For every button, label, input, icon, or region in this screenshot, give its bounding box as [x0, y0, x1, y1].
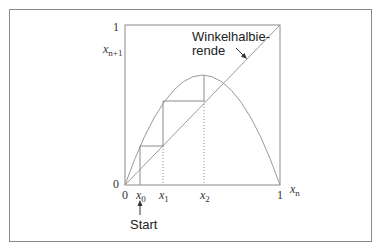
tick-sub: 1: [164, 194, 169, 204]
annotation-line-2: rende: [192, 44, 270, 58]
parabola-curve: [125, 75, 280, 185]
x-label-sub: n: [295, 188, 300, 198]
y-label-sub: n+1: [108, 48, 122, 58]
y-axis-origin: 0: [113, 178, 119, 190]
x-axis-label: xn: [290, 183, 300, 198]
x-tick-x0: x0: [136, 189, 146, 204]
cobweb-diagram: [0, 0, 382, 250]
x-tick-x1: x1: [159, 189, 169, 204]
annotation-line-1: Winkelhalbie-: [192, 30, 270, 44]
tick-sub: 0: [141, 194, 146, 204]
y-axis-tick-1: 1: [113, 21, 119, 33]
diagonal-annotation: Winkelhalbie- rende: [192, 30, 270, 57]
start-label: Start: [130, 218, 157, 232]
y-axis-label: xn+1: [103, 43, 122, 58]
x-axis-origin: 0: [122, 189, 128, 201]
tick-sub: 2: [205, 194, 210, 204]
x-axis-tick-1: 1: [277, 189, 283, 201]
x-tick-x2: x2: [200, 189, 210, 204]
